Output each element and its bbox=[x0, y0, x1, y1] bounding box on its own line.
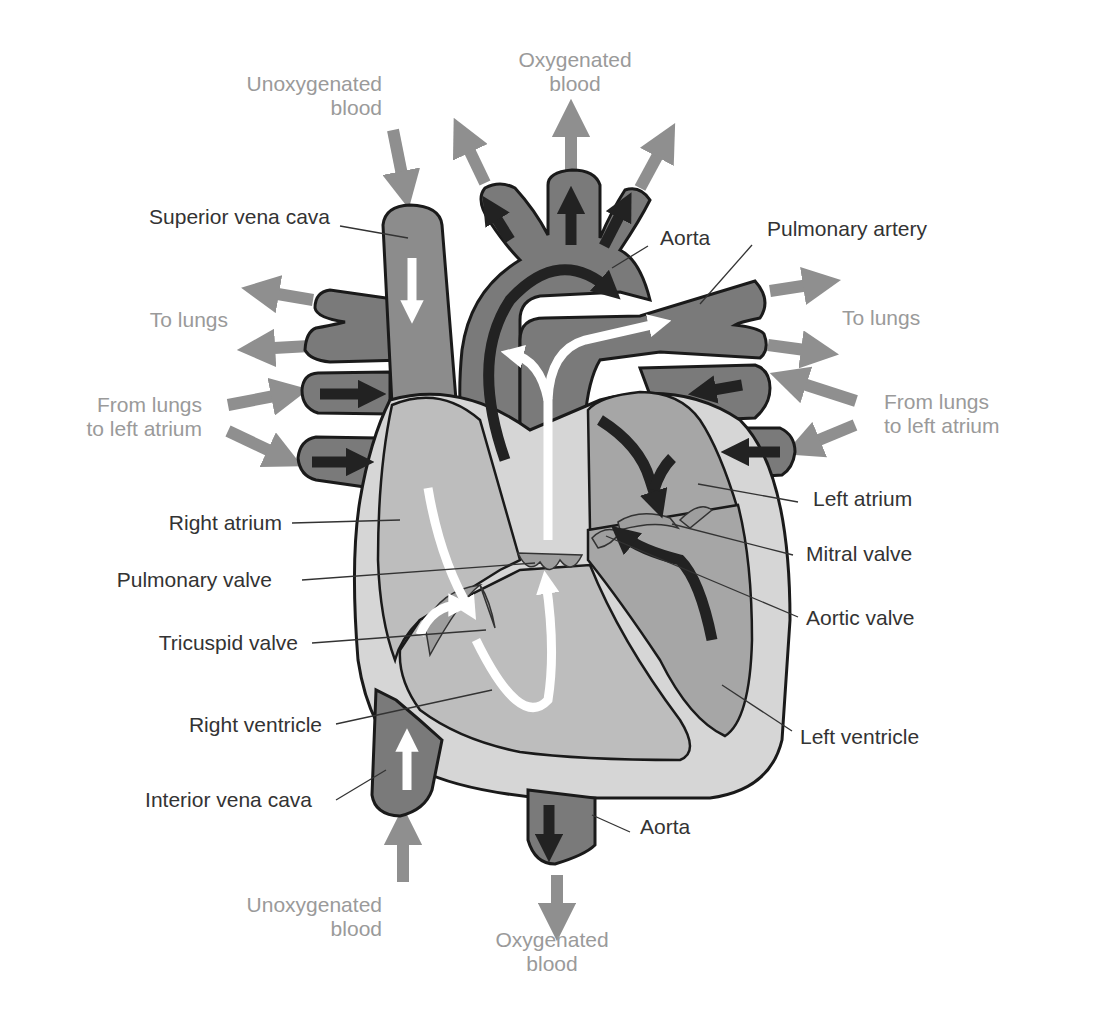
arrow-to-lungs-left-upper bbox=[260, 291, 313, 300]
label-top-oxygenated-blood: Oxygenated blood bbox=[500, 48, 650, 96]
arrow-to-lungs-left-lower bbox=[256, 346, 310, 349]
label-right-to-lungs: To lungs bbox=[842, 306, 972, 330]
arrow-to-lungs-right-lower bbox=[768, 345, 820, 352]
label-aorta-bottom: Aorta bbox=[640, 815, 690, 839]
label-left-atrium: Left atrium bbox=[813, 487, 912, 511]
arrow-to-lungs-right-upper bbox=[770, 283, 822, 291]
arrow-from-lungs-right-lower bbox=[802, 425, 855, 447]
label-mitral-valve: Mitral valve bbox=[806, 542, 912, 566]
label-interior-vena-cava: Interior vena cava bbox=[60, 788, 312, 812]
descending-aorta bbox=[528, 790, 595, 864]
arrow-from-lungs-left-lower bbox=[228, 431, 285, 458]
label-aortic-valve: Aortic valve bbox=[806, 606, 915, 630]
label-right-from-lungs: From lungs to left atrium bbox=[884, 390, 1054, 438]
arrow-aorta-branch-left-out bbox=[462, 135, 485, 183]
label-left-to-lungs: To lungs bbox=[100, 308, 228, 332]
label-tricuspid-valve: Tricuspid valve bbox=[60, 631, 298, 655]
label-aorta-top: Aorta bbox=[660, 226, 710, 250]
arrow-from-lungs-left-upper bbox=[228, 393, 290, 405]
label-bottom-unoxygenated-blood: Unoxygenated blood bbox=[200, 893, 382, 941]
label-bottom-oxygenated-blood: Oxygenated blood bbox=[477, 928, 627, 976]
arrow-svc-in bbox=[393, 130, 405, 190]
label-left-ventricle: Left ventricle bbox=[800, 725, 919, 749]
label-right-atrium: Right atrium bbox=[60, 511, 282, 535]
label-right-ventricle: Right ventricle bbox=[60, 713, 322, 737]
label-pulmonary-valve: Pulmonary valve bbox=[40, 568, 272, 592]
arrow-aorta-branch-right-out bbox=[640, 140, 666, 188]
label-left-from-lungs: From lungs to left atrium bbox=[40, 393, 202, 441]
label-pulmonary-artery: Pulmonary artery bbox=[767, 217, 927, 241]
label-superior-vena-cava: Superior vena cava bbox=[60, 205, 330, 229]
arrow-from-lungs-right-upper bbox=[788, 379, 856, 401]
label-top-unoxygenated-blood: Unoxygenated blood bbox=[200, 72, 382, 120]
